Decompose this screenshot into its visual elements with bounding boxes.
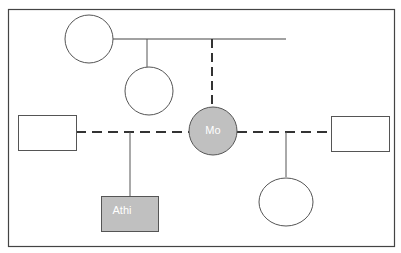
mo-label: Mo: [205, 124, 220, 136]
node-athi[interactable]: Athi: [102, 197, 159, 232]
genogram-diagram: Mo Athi: [0, 0, 401, 253]
node-mo[interactable]: Mo: [189, 107, 237, 155]
node-bottom-right-female[interactable]: [259, 178, 313, 226]
node-right-male[interactable]: [332, 117, 390, 152]
node-middle-female[interactable]: [125, 67, 173, 115]
athi-label: Athi: [113, 204, 132, 216]
node-top-left-female[interactable]: [65, 15, 113, 63]
node-left-male[interactable]: [19, 116, 77, 151]
